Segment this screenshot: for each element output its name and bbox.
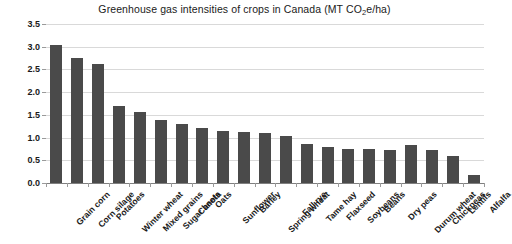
y-axis-tick-mark: [42, 183, 46, 184]
chart-title-prefix: Greenhouse gas intensities of crops in C…: [98, 3, 362, 15]
y-axis-tick-label: 2.5: [0, 65, 40, 74]
chart-title-suffix: e/ha): [366, 3, 390, 15]
bar: [134, 112, 146, 183]
x-axis-tick-labels: Grain cornCorn silagePotatoesWinter whea…: [0, 188, 489, 244]
bar: [426, 150, 438, 183]
chart-title-subscript: 2: [362, 8, 366, 17]
y-axis-tick-mark: [42, 160, 46, 161]
y-axis-tick-label: 3.5: [0, 20, 40, 29]
bar: [196, 128, 208, 183]
x-axis-tick-mark: [296, 183, 297, 187]
y-axis-tick-label: 2.0: [0, 88, 40, 97]
x-axis-tick-mark: [213, 183, 214, 187]
x-axis-tick-mark: [192, 183, 193, 187]
x-axis-tick-mark: [421, 183, 422, 187]
x-axis-tick-mark: [401, 183, 402, 187]
x-axis-tick-mark: [234, 183, 235, 187]
x-axis-tick-mark: [88, 183, 89, 187]
bar: [113, 106, 125, 183]
x-axis-tick-mark: [463, 183, 464, 187]
x-axis-tick-label: Beans: [383, 190, 407, 214]
x-axis-tick-mark: [317, 183, 318, 187]
x-axis-tick-mark: [67, 183, 68, 187]
x-axis-tick-mark: [46, 183, 47, 187]
x-axis-tick-mark: [442, 183, 443, 187]
bar: [384, 150, 396, 183]
x-axis-tick-mark: [484, 183, 485, 187]
bar: [92, 64, 104, 183]
bar: [71, 58, 83, 183]
x-axis-tick-mark: [150, 183, 151, 187]
x-axis-tick-mark: [359, 183, 360, 187]
x-axis-tick-mark: [275, 183, 276, 187]
y-axis-tick-mark: [42, 115, 46, 116]
bar: [301, 144, 313, 183]
bar: [280, 136, 292, 183]
y-axis-tick-label: 1.5: [0, 110, 40, 119]
x-axis-tick-mark: [171, 183, 172, 187]
y-axis-tick-mark: [42, 69, 46, 70]
bar: [217, 131, 229, 183]
bar: [468, 175, 480, 183]
bar: [155, 120, 167, 183]
bar: [176, 124, 188, 183]
bar: [322, 147, 334, 183]
y-axis-tick-mark: [42, 47, 46, 48]
y-axis-tick-labels: 0.00.51.01.52.02.53.03.5: [0, 24, 40, 183]
y-axis-tick-mark: [42, 138, 46, 139]
bar: [259, 133, 271, 183]
y-axis-tick-label: 3.0: [0, 42, 40, 51]
x-axis-tick-mark: [109, 183, 110, 187]
chart-title: Greenhouse gas intensities of crops in C…: [0, 3, 489, 15]
bars-layer: [46, 24, 484, 183]
x-axis-tick-mark: [380, 183, 381, 187]
bar: [238, 132, 250, 183]
y-axis-tick-label: 0.0: [0, 179, 40, 188]
x-axis-tick-mark: [338, 183, 339, 187]
bar: [447, 156, 459, 183]
x-axis-tick-mark: [129, 183, 130, 187]
bar: [50, 45, 62, 183]
y-axis-tick-label: 1.0: [0, 133, 40, 142]
x-axis-tick-label: Barley: [258, 190, 283, 215]
x-axis-tick-mark: [255, 183, 256, 187]
bar: [405, 145, 417, 183]
x-axis-tick-label: Dry peas: [407, 190, 439, 222]
bar: [363, 149, 375, 183]
bar: [342, 149, 354, 183]
y-axis-tick-label: 0.5: [0, 156, 40, 165]
y-axis-tick-mark: [42, 24, 46, 25]
y-axis-tick-mark: [42, 92, 46, 93]
